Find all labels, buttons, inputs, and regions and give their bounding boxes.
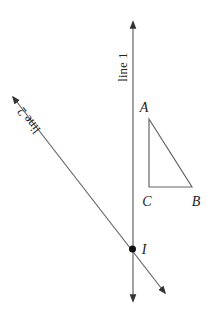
vertex-b-label: B (192, 194, 201, 209)
triangle-abc (149, 119, 192, 187)
diagram-svg: line 1 line 2 A C B I (0, 0, 211, 318)
geometry-diagram: line 1 line 2 A C B I (0, 0, 211, 318)
vertex-c-label: C (142, 194, 152, 209)
line-2-label: line 2 (14, 105, 44, 137)
line-1-label: line 1 (115, 52, 130, 81)
vertex-a-label: A (139, 100, 149, 115)
intersection-label: I (141, 242, 148, 257)
intersection-point (129, 246, 136, 253)
